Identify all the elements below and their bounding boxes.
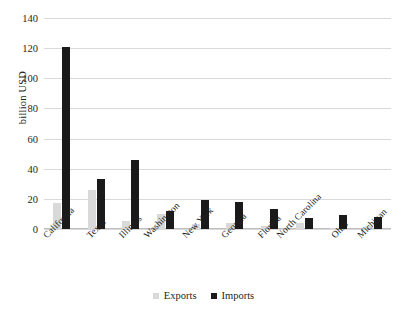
bar-imports: [305, 218, 313, 229]
bar-group: [44, 18, 79, 229]
bar-group: [148, 18, 183, 229]
bar-group: [113, 18, 148, 229]
x-axis-label-cell: Ohio: [322, 231, 357, 287]
x-axis-label-cell: Georgia: [218, 231, 253, 287]
bar-group: [218, 18, 253, 229]
x-axis-label-cell: Illinois: [113, 231, 148, 287]
y-axis-tick-label: 100: [22, 73, 38, 84]
x-axis-label-cell: Michigan: [356, 231, 391, 287]
legend-item[interactable]: Imports: [211, 290, 255, 301]
y-axis-title: billion USD: [17, 48, 28, 148]
y-axis-tick-label: 0: [33, 224, 38, 235]
y-axis-tick-label: 20: [28, 193, 39, 204]
legend-label: Exports: [164, 290, 197, 301]
chart-legend: ExportsImports: [0, 290, 407, 301]
y-axis-tick-label: 40: [28, 163, 39, 174]
x-axis-labels: CaliforniaTexasIllinoisWashingtonNew Yor…: [44, 231, 391, 287]
legend-swatch-icon: [153, 293, 159, 299]
bar-groups: [44, 18, 391, 229]
bar-imports: [62, 47, 70, 229]
y-axis-tick-label: 140: [22, 13, 38, 24]
plot-area: 020406080100120140: [44, 18, 391, 229]
bar-chart: billion USD 020406080100120140 Californi…: [0, 0, 407, 311]
x-axis-label-cell: North Carolina: [287, 231, 322, 287]
bar-group: [322, 18, 357, 229]
y-axis-tick-label: 120: [22, 43, 38, 54]
y-axis-tick-label: 60: [28, 133, 39, 144]
bar-group: [252, 18, 287, 229]
x-axis-label-cell: New York: [183, 231, 218, 287]
x-axis-label-cell: Washington: [148, 231, 183, 287]
bar-group: [183, 18, 218, 229]
legend-swatch-icon: [211, 293, 217, 299]
legend-item[interactable]: Exports: [153, 290, 197, 301]
bar-group: [356, 18, 391, 229]
y-axis-tick-label: 80: [28, 103, 39, 114]
x-axis-label-cell: Texas: [79, 231, 114, 287]
x-axis-label-cell: California: [44, 231, 79, 287]
bar-group: [79, 18, 114, 229]
legend-label: Imports: [222, 290, 255, 301]
